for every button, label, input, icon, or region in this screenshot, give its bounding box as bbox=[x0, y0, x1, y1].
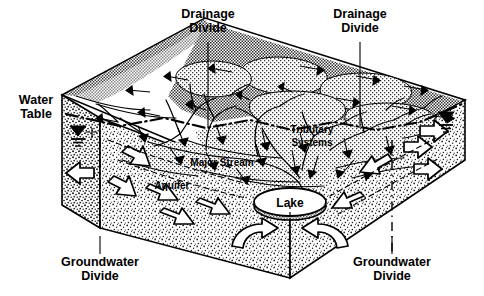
drainage-divide-right-line2: Divide bbox=[341, 21, 379, 35]
groundwater-divide-left-line2: Divide bbox=[81, 269, 119, 283]
label-aquifer: Aquifer bbox=[155, 180, 190, 191]
label-drainage-divide-right: Drainage Divide bbox=[333, 7, 387, 35]
label-lake: Lake bbox=[276, 196, 304, 210]
water-table-line2: Table bbox=[20, 107, 52, 121]
block-diagram-figure: Drainage Divide Drainage Divide Water Ta… bbox=[0, 0, 484, 296]
groundwater-divide-right-line2: Divide bbox=[373, 269, 411, 283]
label-drainage-divide-left: Drainage Divide bbox=[181, 7, 235, 35]
groundwater-divide-left-line1: Groundwater bbox=[61, 255, 139, 269]
diagram-canvas: Drainage Divide Drainage Divide Water Ta… bbox=[0, 0, 484, 296]
label-water-table-left: Water Table bbox=[19, 93, 53, 121]
drainage-divide-left-line1: Drainage bbox=[181, 7, 235, 21]
groundwater-divide-right-line1: Groundwater bbox=[353, 255, 431, 269]
label-groundwater-divide-right: Groundwater Divide bbox=[353, 255, 431, 283]
tributary-systems-line2: Systems bbox=[291, 137, 333, 148]
label-groundwater-divide-left: Groundwater Divide bbox=[61, 255, 139, 283]
label-major-stream: Major Stream bbox=[190, 157, 253, 168]
drainage-divide-right-line1: Drainage bbox=[333, 7, 387, 21]
water-table-line1: Water bbox=[19, 93, 53, 107]
tributary-systems-line1: Tributary bbox=[291, 124, 334, 135]
drainage-divide-left-line2: Divide bbox=[189, 21, 227, 35]
